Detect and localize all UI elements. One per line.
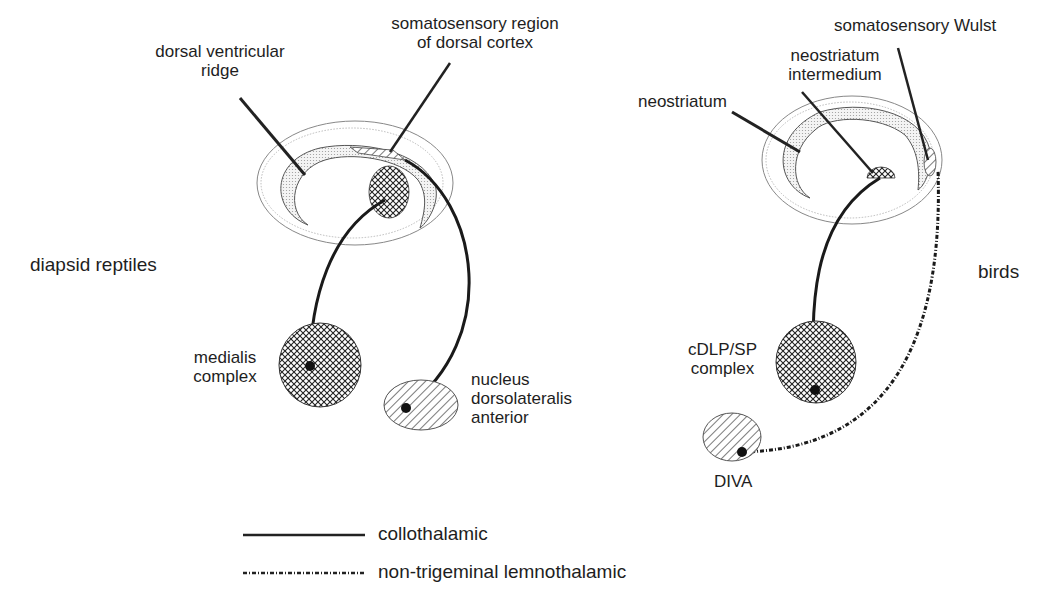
diva-nucleus	[703, 413, 761, 461]
neostriatum-pointer	[732, 112, 800, 152]
label-dvr-line1: dorsal ventricular	[150, 42, 290, 61]
reptile-brain	[257, 121, 453, 245]
label-cdlp-line2: complex	[680, 359, 765, 378]
label-diva: DIVA	[714, 472, 752, 491]
label-ni-line1: neostriatum	[780, 46, 890, 65]
label-somatosensory-wulst: somatosensory Wulst	[834, 16, 996, 35]
label-somatosensory-cortex: somatosensory region of dorsal cortex	[375, 14, 575, 52]
label-ni-line2: intermedium	[780, 65, 890, 84]
somato-pointer	[390, 63, 450, 152]
panel-title-reptiles: diapsid reptiles	[30, 255, 157, 274]
label-cdlp-line1: cDLP/SP	[680, 340, 765, 359]
label-dvr-line2: ridge	[150, 61, 290, 80]
bird-lemnothalamic-path	[742, 170, 938, 452]
label-somato-line1: somatosensory region	[375, 14, 575, 33]
label-ndla-line3: anterior	[471, 408, 572, 427]
label-cdlp-sp: cDLP/SP complex	[680, 340, 765, 378]
nucleus-dorsolateralis-anterior	[384, 380, 458, 430]
label-ndla-line2: dorsolateralis	[471, 389, 572, 408]
label-dvr: dorsal ventricular ridge	[150, 42, 290, 80]
medialis-complex-nucleus	[279, 323, 361, 407]
label-neostriatum: neostriatum	[638, 92, 727, 111]
diagram-canvas	[0, 0, 1040, 595]
dvr-pointer	[240, 98, 305, 175]
label-neostriatum-intermedium: neostriatum intermedium	[780, 46, 890, 84]
label-medialis-line1: medialis	[180, 348, 270, 367]
panel-title-birds: birds	[978, 262, 1019, 281]
legend-label-lemnothalamic: non-trigeminal lemnothalamic	[378, 562, 626, 581]
label-medialis: medialis complex	[180, 348, 270, 386]
legend-label-collothalamic: collothalamic	[378, 524, 488, 543]
label-somato-line2: of dorsal cortex	[375, 33, 575, 52]
reptile-collothalamic-path-2	[405, 160, 469, 408]
label-medialis-line2: complex	[180, 367, 270, 386]
label-ndla-line1: nucleus	[471, 370, 572, 389]
label-ndla: nucleus dorsolateralis anterior	[471, 370, 572, 427]
